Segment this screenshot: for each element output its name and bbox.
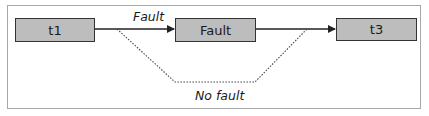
edge-label-no-fault: No fault [195, 88, 244, 103]
node-fault-label: Fault [200, 23, 231, 38]
node-t3-label: t3 [370, 22, 383, 37]
node-t1: t1 [15, 18, 95, 42]
node-t3: t3 [336, 18, 417, 41]
node-t1-label: t1 [48, 23, 61, 38]
edge-label-fault: Fault [133, 9, 164, 24]
node-fault: Fault [175, 18, 256, 42]
